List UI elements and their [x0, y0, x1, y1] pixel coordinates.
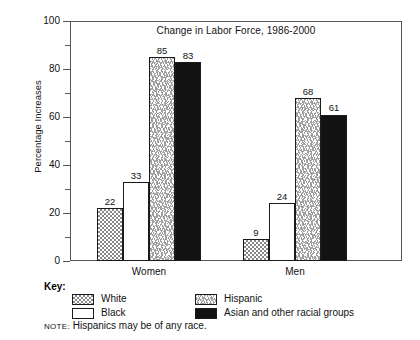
- legend-label-hispanic: Hispanic: [224, 293, 262, 304]
- bar-value-men-black: 24: [269, 192, 295, 202]
- legend-swatch-white-icon: [72, 294, 94, 305]
- bar-value-women-black: 33: [123, 171, 149, 181]
- bar-men-black: [269, 203, 295, 261]
- legend-label-asian: Asian and other racial groups: [224, 307, 354, 318]
- y-tick-label-0: 0: [18, 256, 60, 266]
- bar-value-men-asian: 61: [321, 103, 347, 113]
- y-tick-100: [63, 21, 70, 22]
- y-tick-label-60: 60: [18, 112, 60, 122]
- bar-men-hispanic: [295, 98, 321, 261]
- y-tick-label-20: 20: [18, 208, 60, 218]
- y-tick-label-40: 40: [18, 160, 60, 170]
- bar-men-white: [243, 239, 269, 261]
- bar-men-asian: [321, 115, 347, 261]
- note-text: Hispanics may be of any race.: [73, 320, 207, 331]
- bar-women-hispanic: [149, 57, 175, 261]
- y-tick-0: [63, 261, 70, 262]
- key-title: Key:: [44, 281, 66, 292]
- y-tick-40: [63, 165, 70, 166]
- plot-area: 22 33 85 83 9 24 68 61: [70, 21, 402, 261]
- y-tick-20: [63, 213, 70, 214]
- legend-swatch-asian-icon: [195, 308, 217, 319]
- legend-swatch-hispanic-icon: [195, 294, 217, 305]
- x-label-women: Women: [97, 266, 201, 277]
- y-tick-label-80: 80: [18, 64, 60, 74]
- bar-value-women-white: 22: [97, 197, 123, 207]
- legend-label-white: White: [101, 293, 127, 304]
- bar-value-women-hispanic: 85: [149, 46, 175, 56]
- bar-women-asian: [175, 62, 201, 261]
- bar-women-white: [97, 208, 123, 261]
- bar-value-women-asian: 83: [175, 51, 201, 61]
- note-row: NOTE: Hispanics may be of any race.: [44, 320, 207, 331]
- bar-value-men-hispanic: 68: [295, 87, 321, 97]
- note-label: NOTE:: [44, 322, 70, 331]
- y-tick-label-100: 100: [18, 16, 60, 26]
- bar-value-men-white: 9: [243, 228, 269, 238]
- bar-chart-figure: Percentage Increases 100 80 60 40 20 0 C…: [0, 0, 420, 340]
- legend-swatch-black-icon: [72, 308, 94, 319]
- x-label-men: Men: [243, 266, 347, 277]
- legend-label-black: Black: [101, 307, 125, 318]
- y-axis-label: Percentage Increases: [32, 27, 43, 227]
- bar-women-black: [123, 182, 149, 261]
- y-tick-80: [63, 69, 70, 70]
- y-tick-60: [63, 117, 70, 118]
